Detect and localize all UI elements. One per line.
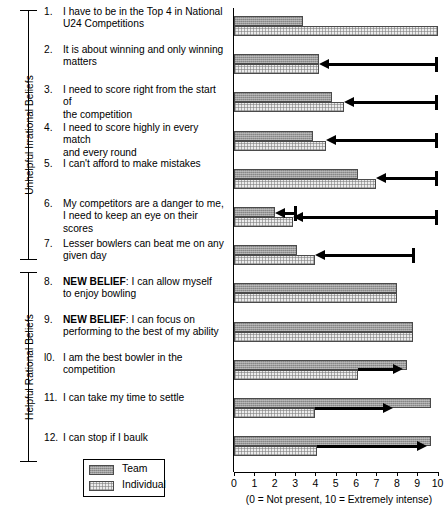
y-axis-line bbox=[233, 8, 234, 472]
bar-team-item-7 bbox=[234, 245, 297, 255]
change-arrow-head-2 bbox=[344, 97, 354, 107]
change-arrow-tail-2 bbox=[435, 95, 438, 110]
belief-item-text: I can take my time to settle bbox=[63, 392, 226, 404]
change-arrow-shaft-3 bbox=[334, 139, 438, 142]
change-arrow-head-4 bbox=[376, 173, 386, 183]
bar-individual-item-8 bbox=[234, 293, 397, 303]
belief-item-number: l0. bbox=[44, 352, 63, 364]
x-tick-2 bbox=[275, 472, 276, 476]
belief-item-text: I can't afford to make mistakes bbox=[63, 158, 226, 170]
change-arrow-head-8 bbox=[393, 364, 403, 374]
legend-label-individual: Individual bbox=[122, 479, 166, 490]
belief-item-4: 4.I need to score highly in every matcha… bbox=[44, 122, 226, 159]
change-arrow-shaft-1 bbox=[327, 63, 437, 66]
belief-item-number: 5. bbox=[44, 158, 63, 170]
change-arrow-shaft-10 bbox=[317, 445, 419, 448]
x-tick-10 bbox=[438, 472, 439, 476]
change-arrow-tail-3 bbox=[435, 133, 438, 148]
x-tick-label-0: 0 bbox=[231, 477, 237, 489]
belief-item-number: 8. bbox=[44, 276, 63, 288]
belief-item-8: 8.NEW BELIEF: I can allow myselfto enjoy… bbox=[44, 276, 226, 301]
belief-item-number: 12. bbox=[44, 432, 63, 444]
change-arrow-head-1 bbox=[319, 59, 329, 69]
belief-item-text: I have to be in the Top 4 in NationalU24… bbox=[63, 6, 226, 31]
belief-item-number: 9. bbox=[44, 314, 63, 326]
belief-item-number: 1. bbox=[44, 6, 63, 18]
change-arrow-shaft-9 bbox=[315, 407, 384, 410]
belief-item-text: I need to score highly in every matchand… bbox=[63, 122, 226, 159]
belief-item-text: I can stop if I baulk bbox=[63, 432, 226, 444]
belief-item-text: I need to score right from the start oft… bbox=[63, 84, 226, 121]
change-arrow-shaft-2 bbox=[352, 101, 438, 104]
change-arrow-tail-1 bbox=[435, 57, 438, 72]
bar-individual-item-12 bbox=[234, 446, 317, 456]
belief-item-text: NEW BELIEF: I can allow myselfto enjoy b… bbox=[63, 276, 226, 301]
x-tick-label-9: 9 bbox=[414, 477, 420, 489]
bar-individual-item-11 bbox=[234, 408, 315, 418]
bar-individual-item-7 bbox=[234, 255, 315, 265]
change-arrow-head-6 bbox=[293, 212, 303, 222]
x-tick-9 bbox=[417, 472, 418, 476]
x-tick-label-1: 1 bbox=[251, 477, 257, 489]
belief-item-text: I am the best bowler in thecompetition bbox=[63, 352, 226, 377]
belief-item-number: 6. bbox=[44, 198, 63, 210]
legend-swatch-individual bbox=[89, 481, 114, 491]
brace-cap-top bbox=[20, 10, 37, 11]
belief-item-2: 2.It is about winning and only winningma… bbox=[44, 44, 226, 69]
x-tick-label-3: 3 bbox=[292, 477, 298, 489]
x-tick-label-4: 4 bbox=[312, 477, 318, 489]
new-belief-tag: NEW BELIEF bbox=[63, 276, 126, 287]
bar-individual-item-9 bbox=[234, 332, 413, 342]
bar-team-item-3 bbox=[234, 92, 332, 102]
x-tick-3 bbox=[295, 472, 296, 476]
belief-item-9: 9.NEW BELIEF: I can focus onperforming t… bbox=[44, 314, 226, 339]
belief-item-text: Lesser bowlers can beat me on anygiven d… bbox=[63, 238, 226, 263]
x-tick-label-6: 6 bbox=[353, 477, 359, 489]
bar-individual-item-10 bbox=[234, 370, 358, 380]
belief-item-text: NEW BELIEF: I can focus onperforming to … bbox=[63, 314, 226, 339]
brace-cap-top bbox=[20, 272, 37, 273]
belief-item-number: 2. bbox=[44, 44, 63, 56]
change-arrow-head-10 bbox=[417, 441, 427, 451]
belief-item-number: 11. bbox=[44, 392, 63, 404]
bar-team-item-6 bbox=[234, 207, 275, 217]
belief-item-11: 11.I can take my time to settle bbox=[44, 392, 226, 404]
belief-item-number: 4. bbox=[44, 122, 63, 134]
chart-figure: Unhelpful Irrational Beliefs Helpful Rat… bbox=[0, 0, 444, 517]
x-tick-5 bbox=[336, 472, 337, 476]
belief-item-3: 3.I need to score right from the start o… bbox=[44, 84, 226, 121]
bar-team-item-2 bbox=[234, 54, 319, 64]
bar-individual-item-5 bbox=[234, 179, 376, 189]
x-axis-caption: (0 = Not present, 10 = Extremely intense… bbox=[234, 494, 444, 505]
bar-individual-item-6 bbox=[234, 217, 293, 227]
change-arrow-shaft-7 bbox=[323, 254, 415, 257]
x-tick-7 bbox=[376, 472, 377, 476]
group-brace-unhelpful-irrational-beliefs: Unhelpful Irrational Beliefs bbox=[18, 10, 40, 260]
bar-individual-item-3 bbox=[234, 102, 344, 112]
legend-label-team: Team bbox=[122, 463, 147, 474]
bar-team-item-5 bbox=[234, 169, 358, 179]
x-tick-0 bbox=[234, 472, 235, 476]
bar-team-item-8 bbox=[234, 283, 397, 293]
x-tick-label-10: 10 bbox=[432, 477, 444, 489]
bar-team-item-4 bbox=[234, 131, 313, 141]
x-tick-label-2: 2 bbox=[272, 477, 278, 489]
legend-swatch-team bbox=[89, 465, 114, 475]
belief-item-number: 7. bbox=[44, 238, 63, 250]
group-label-helpful: Helpful Rational Beliefs bbox=[24, 314, 35, 420]
change-arrow-tail-4 bbox=[435, 171, 438, 186]
x-tick-label-8: 8 bbox=[394, 477, 400, 489]
change-arrow-shaft-8 bbox=[358, 368, 395, 371]
belief-item-text: It is about winning and only winningmatt… bbox=[63, 44, 226, 69]
bar-team-item-9 bbox=[234, 322, 413, 332]
change-arrow-head-5 bbox=[275, 208, 285, 218]
bar-individual-item-1 bbox=[234, 26, 438, 36]
brace-cap-bottom bbox=[20, 259, 37, 260]
group-label-unhelpful: Unhelpful Irrational Beliefs bbox=[24, 75, 35, 195]
new-belief-tag: NEW BELIEF bbox=[63, 314, 126, 325]
x-tick-8 bbox=[397, 472, 398, 476]
change-arrow-tail-6 bbox=[435, 210, 438, 225]
x-tick-label-7: 7 bbox=[374, 477, 380, 489]
belief-item-6: 6.My competitors are a danger to me,I ne… bbox=[44, 198, 226, 235]
x-tick-1 bbox=[254, 472, 255, 476]
